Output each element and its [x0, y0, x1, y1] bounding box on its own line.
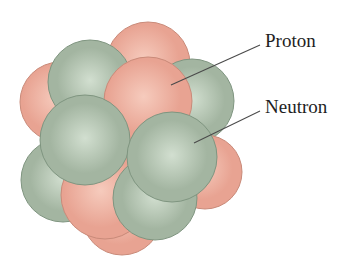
neutron-label: Neutron [265, 97, 327, 116]
proton-label: Proton [265, 31, 316, 50]
neutron-sphere [127, 112, 217, 202]
neutron-sphere [40, 95, 130, 185]
nucleus-particles [20, 22, 242, 255]
